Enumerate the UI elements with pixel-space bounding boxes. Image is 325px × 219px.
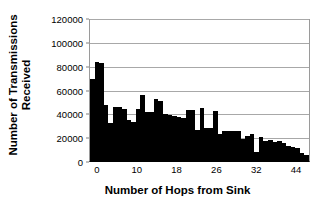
x-tick-label: 26 [211, 164, 222, 175]
y-axis-title-line2: Received [20, 14, 33, 155]
x-tick-label: 44 [291, 164, 302, 175]
x-tick-label: 18 [171, 164, 182, 175]
plot-area [89, 19, 310, 162]
bar [304, 155, 309, 161]
y-tick-label: 80000 [57, 61, 83, 72]
y-tick-label: 120000 [51, 14, 83, 25]
x-tick-label: 10 [132, 164, 143, 175]
bar-series [90, 20, 309, 161]
y-axis-ticks: 020000400006000080000100000120000 [36, 19, 86, 162]
x-axis-title: Number of Hops from Sink [40, 184, 315, 196]
chart-figure: Number of Transmissions Received 0200004… [0, 0, 325, 219]
y-tick-label: 0 [78, 157, 83, 168]
y-axis-title: Number of Transmissions Received [0, 0, 40, 170]
x-axis-ticks: 01018263244 [89, 164, 310, 178]
y-tick-label: 20000 [57, 133, 83, 144]
y-tick-label: 40000 [57, 109, 83, 120]
x-tick-label: 0 [94, 164, 99, 175]
x-tick-label: 32 [251, 164, 262, 175]
y-tick-label: 60000 [57, 85, 83, 96]
y-axis-title-line1: Number of Transmissions [7, 14, 20, 155]
y-tick-label: 100000 [51, 37, 83, 48]
